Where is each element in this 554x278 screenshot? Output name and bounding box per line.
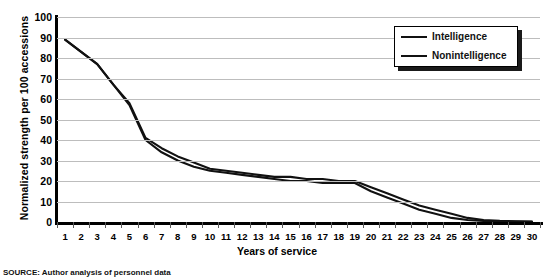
x-axis-tick [186,222,187,228]
x-axis-tick-label: 11 [221,230,231,244]
gridline [57,181,540,182]
x-axis-tick [411,222,412,228]
y-axis-tick-label: 50 [22,114,52,125]
x-axis-tick-label: 8 [175,230,180,244]
x-axis-tick [460,222,461,228]
x-axis-tick-label: 16 [301,230,312,244]
chart-figure: Normalized strength per 100 accessions 0… [0,0,554,278]
legend-item-intelligence: Intelligence [395,27,517,46]
y-axis-tick-label: 10 [22,196,52,207]
x-axis-tick [250,222,251,228]
x-axis-tick [363,222,364,228]
x-axis-tick-label: 28 [494,230,505,244]
x-axis-tick [508,222,509,228]
y-axis-tick-label: 90 [22,32,52,43]
x-axis-tick [105,222,106,228]
x-axis-tick-label: 1 [62,230,67,244]
y-axis-tick-label: 20 [22,176,52,187]
x-axis-tick [540,222,541,228]
y-axis-tick-label: 40 [22,135,52,146]
gridline [57,99,540,100]
x-axis-tick-label: 14 [269,230,280,244]
x-axis-tick-label: 2 [78,230,83,244]
x-axis-tick [154,222,155,228]
legend-label: Intelligence [432,31,487,42]
y-axis-tick-label: 100 [22,12,52,23]
x-axis-tick-label: 19 [350,230,361,244]
x-axis-tick [524,222,525,228]
x-axis-tick [427,222,428,228]
x-axis-tick [73,222,74,228]
x-axis-tick-label: 22 [398,230,409,244]
x-axis-tick [299,222,300,228]
x-axis-tick [347,222,348,228]
x-axis-tick-label: 9 [191,230,196,244]
x-axis-tick-label: 21 [382,230,393,244]
x-axis-tick [57,222,58,228]
x-axis-ticks [57,222,540,229]
legend-line-icon [401,55,427,57]
x-axis-tick-label: 7 [159,230,164,244]
x-axis-tick [89,222,90,228]
x-axis-tick-label: 18 [333,230,344,244]
x-axis-tick [138,222,139,228]
x-axis-tick-label: 17 [317,230,328,244]
x-axis-tick-label: 25 [446,230,457,244]
chart-legend: Intelligence Nonintelligence [394,26,518,67]
x-axis-tick [170,222,171,228]
source-caption: SOURCE: Author analysis of personnel dat… [3,268,423,277]
y-axis-tick-label: 0 [22,217,52,228]
x-axis-tick-label: 3 [95,230,100,244]
gridline [57,79,540,80]
legend-item-nonintelligence: Nonintelligence [395,46,517,65]
x-axis-tick [282,222,283,228]
x-axis-tick [395,222,396,228]
x-axis-tick-label: 5 [127,230,132,244]
y-axis-tick-label: 60 [22,94,52,105]
x-axis-tick [218,222,219,228]
x-axis-title: Years of service [0,245,554,257]
legend-label: Nonintelligence [432,50,506,61]
x-axis-tick [266,222,267,228]
x-axis-tick-label: 20 [366,230,377,244]
x-axis-tick-label: 23 [414,230,425,244]
x-axis-tick [121,222,122,228]
gridline [57,202,540,203]
y-axis-tick-labels: 0102030405060708090100 [20,17,52,222]
x-axis-tick-label: 27 [478,230,489,244]
gridline [57,120,540,121]
x-axis-tick-labels: 1234567891011121314151617181920212223242… [57,230,540,244]
x-axis-tick [331,222,332,228]
x-axis-tick-label: 29 [511,230,522,244]
x-axis-tick [202,222,203,228]
x-axis-tick-label: 15 [285,230,296,244]
x-axis-tick-label: 24 [430,230,441,244]
y-axis-tick-label: 80 [22,53,52,64]
x-axis-tick-label: 4 [111,230,116,244]
x-axis-tick [379,222,380,228]
x-axis-tick [476,222,477,228]
x-axis-tick [443,222,444,228]
x-axis-tick-label: 13 [253,230,264,244]
x-axis-tick [234,222,235,228]
gridline [57,161,540,162]
gridline [57,140,540,141]
gridline [57,17,540,18]
x-axis-tick-label: 26 [462,230,473,244]
x-axis-tick-label: 10 [205,230,216,244]
y-axis-tick-label: 70 [22,73,52,84]
x-axis-tick-label: 12 [237,230,248,244]
x-axis-tick [492,222,493,228]
x-axis-tick-label: 6 [143,230,148,244]
x-axis-tick-label: 30 [527,230,538,244]
x-axis-tick [315,222,316,228]
legend-line-icon [401,36,427,38]
y-axis-tick-label: 30 [22,155,52,166]
